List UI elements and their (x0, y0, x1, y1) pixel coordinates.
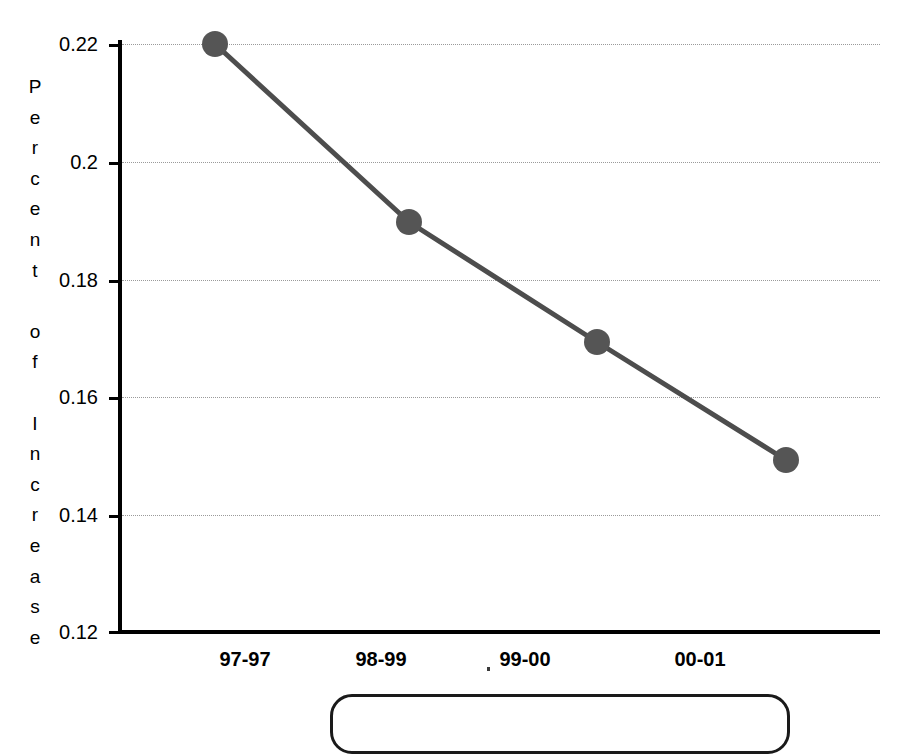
x-tick-label-00-01: 00-01 (630, 648, 770, 670)
data-point-00-01 (773, 447, 799, 473)
y-tick-label-0-12: 0.12 (12, 622, 98, 642)
x-tick-label-98-99: 98-99 (311, 648, 451, 670)
y-tick-label-0-16: 0.16 (12, 387, 98, 407)
data-point-98-99 (396, 209, 422, 235)
y-axis-line (118, 40, 122, 634)
series-markers (202, 31, 799, 473)
gridline-0-14 (122, 515, 880, 517)
data-point-99-00 (584, 329, 610, 355)
y-tick-label-0-14: 0.14 (12, 505, 98, 525)
legend-box (330, 694, 790, 754)
gridline-0-22 (122, 44, 880, 46)
x-tick-label-99-00: 99-00 (455, 648, 595, 670)
y-tick-label-0-18: 0.18 (12, 270, 98, 290)
gridline-0-16 (122, 397, 880, 399)
x-axis-line (118, 630, 880, 634)
gridline-0-2 (122, 162, 880, 164)
y-tick-label-0-2: 0.2 (12, 152, 98, 172)
x-tick-label-97-97: 97-97 (175, 648, 315, 670)
y-tick-label-0-22: 0.22 (12, 34, 98, 54)
gridline-0-18 (122, 280, 880, 282)
scan-artifact-speck (487, 667, 490, 671)
